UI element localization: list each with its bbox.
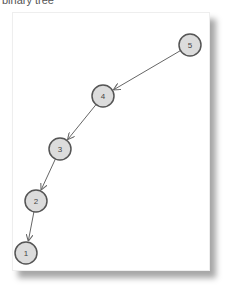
node-label: 4 — [101, 92, 106, 101]
edge-5-4 — [113, 51, 180, 90]
node-3[interactable]: 3 — [49, 138, 71, 160]
node-label: 1 — [24, 249, 29, 258]
node-label: 3 — [58, 145, 63, 154]
edge-2-1 — [28, 212, 34, 241]
node-1[interactable]: 1 — [15, 242, 37, 264]
node-2[interactable]: 2 — [25, 190, 47, 212]
edge-4-3 — [68, 105, 97, 140]
edge-3-2 — [41, 159, 55, 190]
node-label: 5 — [188, 41, 193, 50]
nodes-group: 54321 — [15, 34, 201, 264]
node-label: 2 — [34, 197, 39, 206]
tree-graph: 54321 — [0, 0, 225, 290]
node-5[interactable]: 5 — [179, 34, 201, 56]
node-4[interactable]: 4 — [92, 85, 114, 107]
